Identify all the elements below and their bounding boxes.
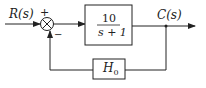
forward-numerator: 10	[102, 12, 116, 25]
minus-sign: −	[54, 29, 62, 40]
block-diagram: R(s) + − 10 s + 1 C(s) H0	[0, 0, 206, 88]
feedback-label: H0	[103, 61, 119, 77]
feedback-label-subscript: 0	[113, 68, 118, 77]
input-label: R(s)	[9, 7, 34, 21]
plus-sign: +	[40, 6, 49, 19]
feedback-label-main: H	[103, 61, 113, 75]
forward-denominator: s + 1	[98, 26, 127, 39]
output-label: C(s)	[157, 8, 182, 22]
